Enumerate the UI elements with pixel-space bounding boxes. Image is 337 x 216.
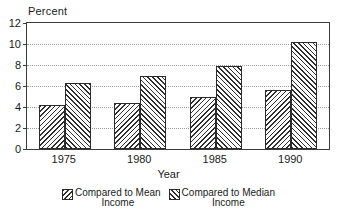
y-axis-tick-mark [23, 44, 27, 45]
y-axis-title: Percent [28, 5, 67, 17]
y-axis-tick-label: 4 [15, 101, 21, 113]
plot-area: 024681012 [26, 22, 330, 150]
bar [65, 83, 91, 149]
y-axis-tick-label: 12 [9, 17, 21, 29]
plot-inner: 024681012 [27, 23, 329, 149]
y-axis-tick-mark [23, 107, 27, 108]
y-axis-tick-mark [23, 149, 27, 150]
legend-label-mean: Compared to MeanIncome [75, 188, 161, 208]
y-axis-tick-label: 0 [15, 143, 21, 155]
legend-item-median: Compared to MedianIncome [169, 188, 275, 208]
y-axis-tick-label: 2 [15, 122, 21, 134]
legend-label-median-line2: Income [212, 197, 245, 208]
bar [114, 103, 140, 149]
y-axis-tick-mark [23, 65, 27, 66]
bar [291, 42, 317, 149]
bar [39, 105, 65, 149]
bar [190, 97, 216, 150]
gridline [27, 65, 329, 66]
bar [265, 90, 291, 149]
chart-legend: Compared to MeanIncome Compared to Media… [0, 188, 337, 208]
bar [140, 76, 166, 150]
legend-item-mean: Compared to MeanIncome [62, 188, 161, 208]
legend-label-median: Compared to MedianIncome [182, 188, 275, 208]
gridline [27, 44, 329, 45]
x-axis-title: Year [0, 168, 337, 180]
legend-swatch-median-icon [169, 189, 180, 200]
y-axis-tick-mark [23, 86, 27, 87]
y-axis-tick-label: 10 [9, 38, 21, 50]
bar [216, 66, 242, 149]
y-axis-tick-label: 8 [15, 59, 21, 71]
y-axis-tick-mark [23, 23, 27, 24]
x-axis-tick-label: 1980 [127, 153, 151, 165]
legend-swatch-mean-icon [62, 189, 73, 200]
y-axis-tick-label: 6 [15, 80, 21, 92]
x-axis-tick-label: 1990 [278, 153, 302, 165]
legend-label-mean-line2: Income [101, 197, 134, 208]
x-axis-tick-label: 1975 [52, 153, 76, 165]
bar-chart-figure: Percent 024681012 Year Compared to MeanI… [0, 0, 337, 216]
y-axis-tick-mark [23, 128, 27, 129]
x-axis-tick-label: 1985 [203, 153, 227, 165]
